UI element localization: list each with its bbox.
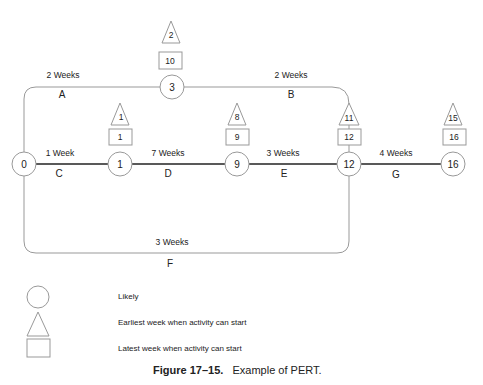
activity-f-duration: 3 Weeks <box>156 237 189 247</box>
activity-a-duration: 2 Weeks <box>47 70 80 80</box>
latest-value-node-12: 12 <box>344 132 353 142</box>
path-activity-a-b <box>24 87 349 152</box>
figure-caption: Figure 17–15. Example of PERT. <box>153 364 322 376</box>
earliest-value-node-1: 1 <box>119 112 124 122</box>
earliest-value-node-3: 2 <box>169 30 174 40</box>
activity-f-name: F <box>167 258 173 269</box>
latest-value-node-3: 10 <box>165 56 174 66</box>
activity-e-name: E <box>281 168 288 179</box>
activity-d-duration: 7 Weeks <box>152 148 185 158</box>
activity-g-name: G <box>392 169 400 180</box>
activity-a-name: A <box>59 89 66 100</box>
earliest-value-node-12: 11 <box>345 113 354 123</box>
latest-value-node-1: 1 <box>118 132 123 142</box>
legend-circle-icon <box>27 286 49 308</box>
node-3-label: 3 <box>169 82 175 93</box>
earliest-value-node-9: 8 <box>235 112 240 122</box>
node-0-label: 0 <box>21 159 27 170</box>
node-9-label: 9 <box>234 159 240 170</box>
latest-value-node-16: 16 <box>449 132 458 142</box>
legend-square-icon <box>27 339 50 357</box>
legend-earliest-label: Earliest week when activity can start <box>118 318 247 327</box>
earliest-value-node-16: 15 <box>448 113 457 123</box>
node-16-label: 16 <box>447 159 458 170</box>
activity-b-duration: 2 Weeks <box>275 70 308 80</box>
legend-triangle-icon <box>27 312 49 336</box>
pert-network-canvas <box>0 0 483 385</box>
figure-title: Example of PERT. <box>233 364 322 376</box>
activity-e-duration: 3 Weeks <box>267 148 300 158</box>
activity-c-duration: 1 Week <box>46 148 75 158</box>
activity-g-duration: 4 Weeks <box>380 148 413 158</box>
node-12-label: 12 <box>343 159 354 170</box>
activity-d-name: D <box>164 168 171 179</box>
node-1-label: 1 <box>117 159 123 170</box>
activity-b-name: B <box>288 89 295 100</box>
legend-latest-label: Latest week when activity can start <box>118 344 242 353</box>
activity-c-name: C <box>55 168 62 179</box>
legend-likely-label: Likely <box>118 292 138 301</box>
latest-value-node-9: 9 <box>235 132 240 142</box>
figure-number: Figure 17–15. <box>153 364 223 376</box>
